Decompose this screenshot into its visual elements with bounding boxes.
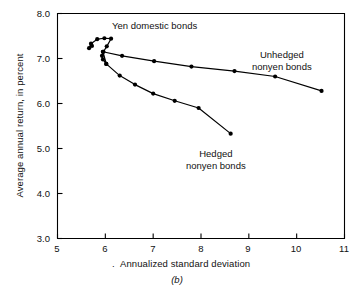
figure-panel-b: Average annual return, in percent . Annu… — [0, 0, 354, 292]
data-point — [95, 37, 99, 41]
data-point — [197, 106, 201, 110]
data-point — [120, 54, 124, 58]
series-line-2 — [103, 52, 231, 134]
data-series-group — [87, 36, 324, 136]
data-point — [89, 42, 93, 46]
axes-frame — [58, 14, 345, 239]
data-point — [118, 74, 122, 78]
data-point — [232, 69, 236, 73]
data-point — [102, 36, 106, 40]
data-point — [173, 99, 177, 103]
data-point — [273, 74, 277, 78]
data-point — [319, 89, 323, 93]
data-point — [104, 62, 108, 66]
data-point — [87, 46, 91, 50]
data-point — [133, 83, 137, 87]
data-point — [189, 65, 193, 69]
plot-area — [0, 0, 354, 292]
data-point — [229, 132, 233, 136]
data-point — [151, 92, 155, 96]
data-point — [152, 59, 156, 63]
axis-ticks — [58, 14, 345, 239]
data-point — [105, 44, 109, 48]
data-point — [101, 50, 105, 54]
data-point — [109, 37, 113, 41]
